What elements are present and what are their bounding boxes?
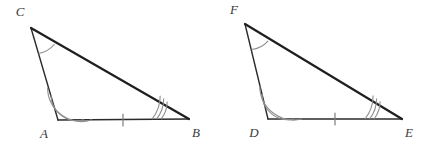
vertex-label-d: D — [248, 125, 259, 140]
segment-cb — [31, 28, 189, 119]
segment-fe — [245, 24, 402, 119]
triangle-abc: C A B — [16, 4, 200, 141]
triangle-def: F D E — [229, 2, 413, 140]
geometry-figure: C A B F D E — [0, 0, 430, 144]
angle-arc-double-a-outer — [48, 88, 92, 122]
angle-arc-single-c — [39, 44, 55, 54]
vertex-label-a: A — [39, 126, 48, 141]
vertex-label-e: E — [404, 125, 413, 140]
angle-arc-single-f — [251, 41, 268, 50]
vertex-label-c: C — [16, 4, 25, 19]
vertex-label-b: B — [192, 125, 200, 140]
vertex-label-f: F — [229, 2, 239, 17]
geometry-canvas: C A B F D E — [0, 0, 430, 144]
angle-arc-double-d-outer — [260, 86, 302, 120]
angle-arc-double-a-inner — [51, 95, 84, 121]
